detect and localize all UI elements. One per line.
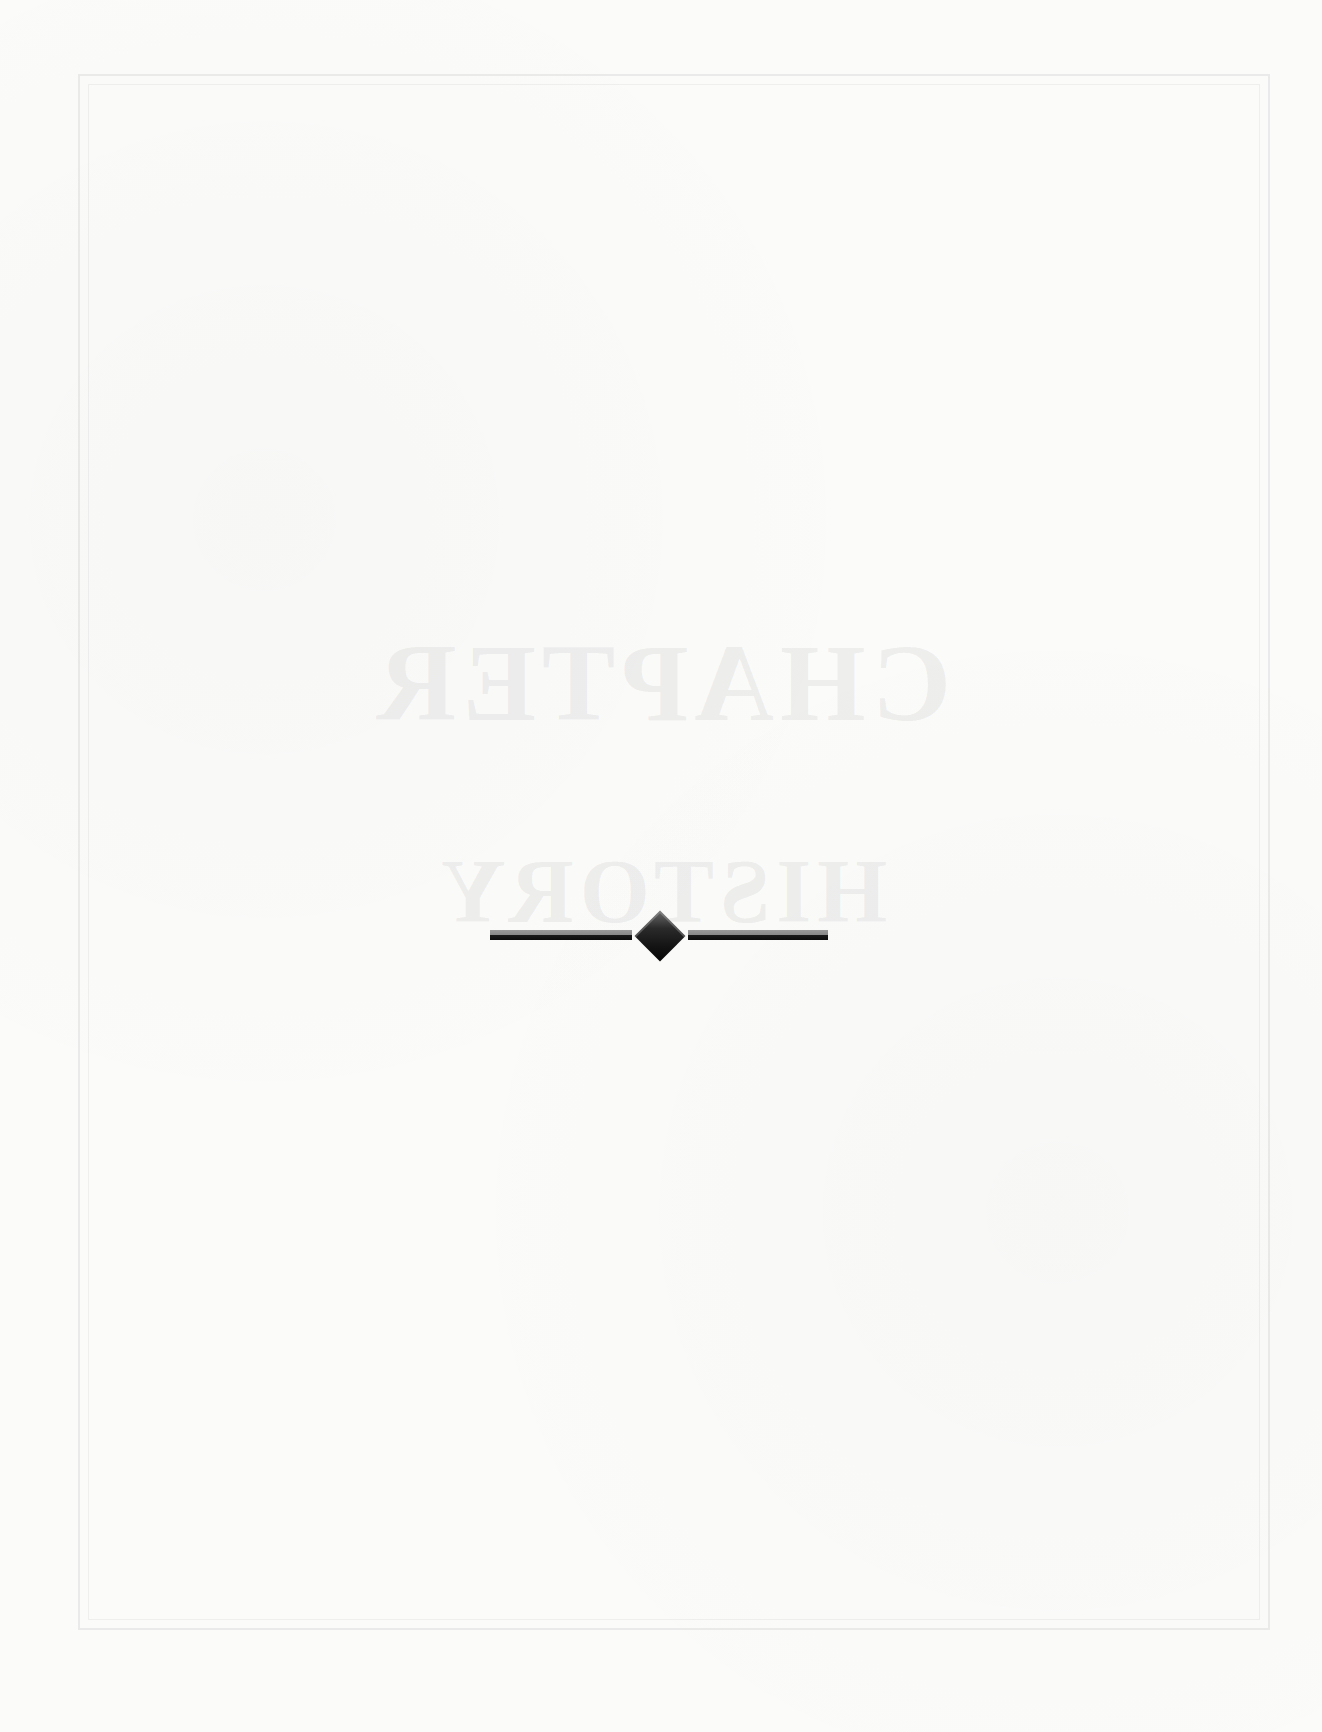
document-page: CHAPTER HISTORY xyxy=(0,0,1322,1732)
ornamental-divider xyxy=(490,908,830,964)
divider-bar-left xyxy=(490,930,632,940)
diamond-ornament-icon xyxy=(635,911,686,962)
divider-bar-right xyxy=(688,930,828,940)
bleed-through-text-line-1: CHAPTER xyxy=(0,620,1322,747)
